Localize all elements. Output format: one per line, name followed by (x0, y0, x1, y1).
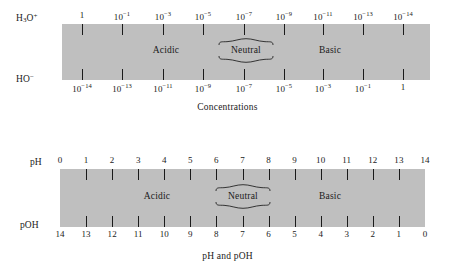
tick-label: 10 (316, 155, 325, 165)
tick-mark (82, 24, 83, 35)
region-label-acidic: Acidic (153, 45, 180, 55)
tick-mark (403, 24, 404, 35)
tick-label: 1 (80, 10, 85, 20)
region-label-neutral: Neutral (215, 45, 277, 56)
tick-mark (190, 169, 191, 180)
tick-mark (284, 69, 285, 80)
tick-mark (82, 69, 83, 80)
tick-label: 10−9 (276, 10, 292, 22)
tick-label: 10−1 (355, 82, 371, 94)
tick-label: 11 (134, 229, 143, 239)
region-label-basic: Basic (319, 45, 341, 55)
tick-mark (164, 169, 165, 180)
tick-mark (363, 69, 364, 80)
region-label-neutral-group: Neutral (212, 184, 274, 209)
tick-label: 12 (108, 229, 117, 239)
tick-mark (399, 169, 400, 180)
tick-mark (373, 169, 374, 180)
concentrations-caption: Concentrations (0, 102, 455, 112)
tick-mark (122, 69, 123, 80)
tick-mark (363, 24, 364, 35)
tick-mark (86, 216, 87, 227)
tick-label: 13 (81, 229, 90, 239)
tick-mark (321, 169, 322, 180)
tick-label: 0 (423, 229, 428, 239)
tick-label: 9 (292, 155, 297, 165)
tick-label: 10−11 (153, 82, 172, 94)
tick-mark (373, 216, 374, 227)
tick-label: 10 (160, 229, 169, 239)
tick-label: 3 (344, 229, 349, 239)
concentrations-figure: H3O+ HO− Acidic Neutral Basic Concentrat… (0, 0, 455, 125)
region-label-neutral-group: Neutral (215, 38, 277, 63)
tick-label: 10−14 (72, 82, 92, 94)
tick-mark (347, 216, 348, 227)
tick-label: 5 (188, 155, 193, 165)
tick-label: 0 (58, 155, 63, 165)
tick-mark (243, 169, 244, 180)
tick-mark (399, 216, 400, 227)
tick-mark (86, 169, 87, 180)
tick-mark (244, 24, 245, 35)
tick-label: 10−3 (155, 10, 171, 22)
brace-bottom-icon (212, 202, 274, 209)
tick-label: 8 (266, 155, 271, 165)
tick-label: 11 (342, 155, 351, 165)
tick-label: 5 (292, 229, 297, 239)
tick-mark (216, 169, 217, 180)
tick-label: 1 (401, 82, 406, 92)
poh-row-label: pOH (20, 220, 39, 230)
tick-mark (347, 169, 348, 180)
tick-label: 10−7 (236, 82, 252, 94)
tick-label: 7 (240, 229, 245, 239)
tick-label: 10−14 (393, 10, 413, 22)
tick-mark (323, 69, 324, 80)
tick-label: 10−9 (195, 82, 211, 94)
tick-label: 6 (266, 229, 271, 239)
tick-mark (122, 24, 123, 35)
tick-mark (323, 24, 324, 35)
tick-mark (269, 216, 270, 227)
region-label-basic: Basic (319, 191, 341, 201)
tick-label: 10−11 (313, 10, 332, 22)
tick-mark (216, 216, 217, 227)
tick-mark (164, 216, 165, 227)
tick-mark (190, 216, 191, 227)
tick-mark (295, 216, 296, 227)
ph-figure: pH pOH Acidic Neutral Basic pH and pOH 0… (0, 145, 455, 275)
tick-label: 10−13 (353, 10, 373, 22)
tick-label: 4 (318, 229, 323, 239)
tick-label: 7 (240, 155, 245, 165)
region-label-acidic: Acidic (144, 191, 171, 201)
brace-top-icon (215, 38, 277, 45)
tick-mark (203, 24, 204, 35)
tick-mark (138, 169, 139, 180)
brace-top-icon (212, 184, 274, 191)
tick-label: 1 (397, 229, 402, 239)
tick-label: 6 (214, 155, 219, 165)
tick-mark (243, 216, 244, 227)
tick-label: 10−7 (236, 10, 252, 22)
tick-label: 14 (55, 229, 64, 239)
brace-bottom-icon (215, 56, 277, 63)
ph-caption: pH and pOH (0, 251, 455, 261)
ph-row-label: pH (30, 157, 42, 167)
hydronium-row-label: H3O+ (16, 12, 38, 24)
tick-mark (112, 216, 113, 227)
tick-mark (403, 69, 404, 80)
tick-mark (244, 69, 245, 80)
tick-mark (163, 69, 164, 80)
tick-mark (203, 69, 204, 80)
tick-label: 3 (136, 155, 141, 165)
tick-mark (284, 24, 285, 35)
tick-label: 2 (110, 155, 115, 165)
tick-mark (295, 169, 296, 180)
tick-mark (163, 24, 164, 35)
tick-label: 10−5 (195, 10, 211, 22)
tick-label: 2 (371, 229, 376, 239)
tick-mark (269, 169, 270, 180)
tick-label: 14 (420, 155, 429, 165)
tick-label: 10−3 (315, 82, 331, 94)
tick-label: 8 (214, 229, 219, 239)
tick-label: 12 (368, 155, 377, 165)
